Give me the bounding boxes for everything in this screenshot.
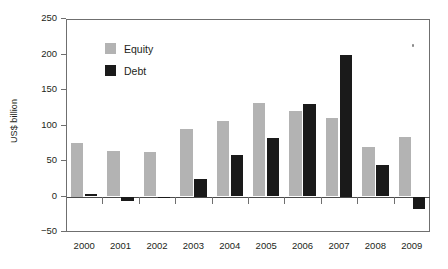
bar-debt-2009 <box>413 197 426 210</box>
bar-debt-2000 <box>85 194 98 197</box>
legend-item-debt: Debt <box>105 62 153 79</box>
bar-debt-2004 <box>231 155 244 197</box>
x-tick-2006 <box>284 197 285 204</box>
y-tick-label: 100 <box>41 119 57 130</box>
bar-debt-2002 <box>158 197 171 199</box>
bar-debt-2003 <box>194 179 207 197</box>
y-tick-label: 200 <box>41 48 57 59</box>
legend: Equity Debt <box>105 40 153 84</box>
bar-debt-2007 <box>340 55 353 197</box>
y-tick-label: 50 <box>46 154 57 165</box>
bar-debt-2006 <box>303 104 316 196</box>
y-tick-mark <box>61 125 66 126</box>
x-tick-2003 <box>175 197 176 204</box>
x-tick-2007 <box>321 197 322 204</box>
y-tick-label: −50 <box>41 225 57 236</box>
y-axis-label: US$ billion <box>9 81 19 161</box>
legend-item-equity: Equity <box>105 40 153 57</box>
y-tick-mark <box>61 231 66 232</box>
x-tick-2008 <box>357 197 358 204</box>
x-axis-label-2009: 2009 <box>389 240 435 251</box>
x-tick-2000 <box>66 197 67 204</box>
scan-artifact-speck <box>412 44 414 47</box>
bar-equity-2006 <box>289 111 302 196</box>
bar-debt-2005 <box>267 138 280 197</box>
legend-label-debt: Debt <box>124 65 146 77</box>
x-tick-2001 <box>102 197 103 204</box>
bar-equity-2003 <box>180 129 193 196</box>
y-tick-mark <box>61 54 66 55</box>
y-tick-mark <box>61 160 66 161</box>
bar-equity-2009 <box>399 137 412 197</box>
bar-equity-2004 <box>217 121 230 196</box>
legend-swatch-equity <box>105 43 116 54</box>
x-tick-2002 <box>139 197 140 204</box>
y-tick-mark <box>61 89 66 90</box>
legend-label-equity: Equity <box>124 43 153 55</box>
x-tick-2005 <box>248 197 249 204</box>
y-tick-mark <box>61 18 66 19</box>
x-tick-2009 <box>394 197 395 204</box>
y-tick-label: 0 <box>52 190 57 201</box>
bar-equity-2007 <box>326 118 339 197</box>
x-tick-2004 <box>212 197 213 204</box>
bar-debt-2008 <box>376 165 389 197</box>
bar-equity-2008 <box>362 147 375 197</box>
bar-equity-2000 <box>71 143 84 196</box>
bar-equity-2002 <box>144 152 157 196</box>
bar-equity-2005 <box>253 103 266 196</box>
legend-swatch-debt <box>105 65 116 76</box>
y-tick-label: 150 <box>41 83 57 94</box>
bar-equity-2001 <box>107 151 120 196</box>
y-tick-label: 250 <box>41 12 57 23</box>
bar-chart: US$ billion −50050100150200250 200020012… <box>0 0 448 269</box>
bar-debt-2001 <box>121 197 134 201</box>
